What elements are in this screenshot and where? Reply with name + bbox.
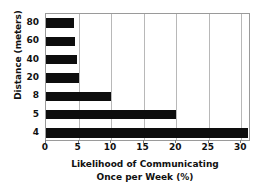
gridline-x-20 — [176, 14, 177, 140]
bar-60m — [46, 37, 75, 47]
x-tick-mark-5 — [78, 140, 79, 143]
y-tick-label-5: 5 — [33, 109, 39, 118]
y-tick-label-40: 40 — [26, 54, 39, 63]
bar-chart-figure: Distance (meters) 80604020854 0510152025… — [0, 0, 265, 194]
gridline-x-15 — [144, 14, 145, 140]
x-tick-label-20: 20 — [169, 143, 182, 152]
x-tick-label-10: 10 — [104, 143, 117, 152]
y-tick-label-4: 4 — [33, 127, 39, 136]
y-tick-label-80: 80 — [26, 18, 39, 27]
x-tick-label-30: 30 — [234, 143, 247, 152]
x-axis-tick-labels: 051015202530 — [45, 143, 250, 155]
x-tick-label-15: 15 — [136, 143, 149, 152]
y-tick-label-8: 8 — [33, 91, 39, 100]
bar-5m — [46, 110, 176, 120]
x-axis-title: Likelihood of Communicating Once per Wee… — [30, 158, 260, 184]
x-axis-title-line-1: Likelihood of Communicating — [30, 158, 260, 171]
x-tick-mark-0 — [45, 140, 46, 143]
y-axis-tick-labels: 80604020854 — [18, 13, 42, 141]
plot-area — [45, 13, 250, 141]
x-tick-mark-25 — [208, 140, 209, 143]
bar-80m — [46, 18, 74, 28]
gridline-x-5 — [79, 14, 80, 140]
gridline-x-30 — [241, 14, 242, 140]
x-tick-label-5: 5 — [74, 143, 80, 152]
bar-20m — [46, 73, 79, 83]
x-tick-label-0: 0 — [42, 143, 48, 152]
x-tick-mark-15 — [143, 140, 144, 143]
x-tick-mark-10 — [110, 140, 111, 143]
bar-40m — [46, 55, 77, 65]
y-tick-label-60: 60 — [26, 36, 39, 45]
gridline-x-10 — [111, 14, 112, 140]
bar-8m — [46, 92, 111, 102]
gridline-x-25 — [209, 14, 210, 140]
x-tick-mark-20 — [175, 140, 176, 143]
y-tick-label-20: 20 — [26, 73, 39, 82]
x-tick-mark-30 — [240, 140, 241, 143]
x-tick-label-25: 25 — [201, 143, 214, 152]
x-axis-title-line-2: Once per Week (%) — [30, 171, 260, 184]
bar-4m — [46, 128, 248, 138]
